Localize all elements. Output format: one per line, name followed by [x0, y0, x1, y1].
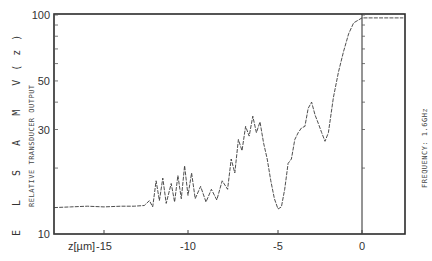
x-tick-label: -10 [180, 240, 196, 252]
x-tick-label: -5 [273, 240, 283, 252]
y-tick-label: 30 [38, 124, 50, 136]
x-axis-tick-labels: -15-10-50 [96, 240, 365, 252]
x-tick-label: 0 [359, 240, 365, 252]
y-axis-label: RELATIVE TRANSDUCER OUTPUT [28, 84, 36, 207]
x-axis-label: z[µm] [68, 240, 95, 252]
elsam-vz-title: E L S A M V(z) [11, 26, 22, 236]
y-tick-label: 100 [32, 9, 50, 21]
x-tick-label: -15 [96, 240, 112, 252]
vz-curve [54, 18, 403, 209]
y-tick-label: 50 [38, 75, 50, 87]
vz-chart: 100503010 -15-10-50 z[µm] E L S A M V(z)… [0, 0, 432, 261]
frequency-annotation: FREQUENCY: 1.6GHz [421, 108, 429, 188]
plot-frame [54, 14, 405, 234]
y-tick-label: 10 [38, 228, 50, 240]
